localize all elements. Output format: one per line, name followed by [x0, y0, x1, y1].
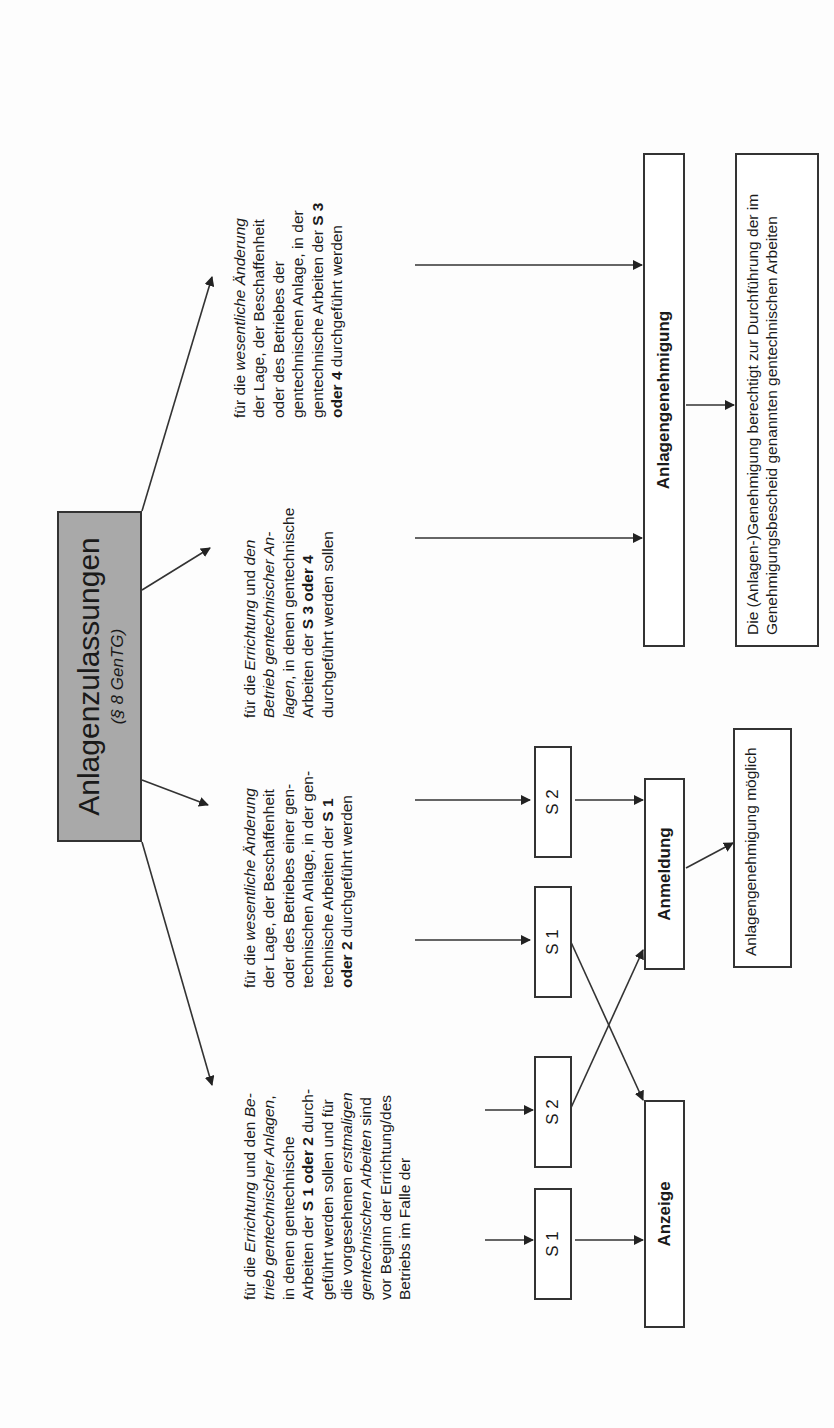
anmeldung-note-box: Anlagengenehmigung möglich	[733, 728, 792, 968]
emphasis-italic: lagen	[280, 680, 297, 718]
safety-box-s2-errichtung: S 2	[534, 1056, 572, 1168]
safety-label: S 1	[543, 929, 563, 955]
emphasis-bold: S 1	[319, 798, 336, 821]
column-aenderung-s3-s4: für die wesentliche Änderungder Lage, de…	[230, 158, 346, 418]
safety-label: S 1	[543, 1231, 563, 1257]
emphasis-bold: S 3 oder 4	[299, 555, 316, 629]
emphasis-bold: oder 2	[338, 941, 355, 988]
emphasis-italic: Betrieb gentechnischer An-	[260, 532, 277, 718]
genehmigung-note: Die (Anlagen-)Genehmigung berechtigt zur…	[743, 165, 781, 635]
emphasis-italic: gentechnischen Arbeiten	[357, 1130, 374, 1300]
column-errichtung-s3-s4: für die Errichtung und denBetrieb gentec…	[240, 468, 337, 718]
anzeige-label: Anzeige	[655, 1181, 675, 1246]
emphasis-italic: trieb gentechnischer Anlagen	[260, 1100, 277, 1300]
emphasis-italic: Be-	[241, 1093, 258, 1117]
safety-box-s2-aenderung: S 2	[534, 746, 572, 858]
emphasis-italic: wesentliche Änderung	[241, 788, 258, 941]
column-errichtung-s1-s2: für die Errichtung und den Be-trieb gent…	[240, 1040, 415, 1300]
emphasis-italic: Errichtung	[241, 600, 258, 671]
safety-label: S 2	[543, 789, 563, 815]
header-title: Anlagenzulassungen	[72, 537, 106, 816]
emphasis-italic: Errichtung	[241, 1182, 258, 1253]
emphasis-bold: S 1 oder 2	[299, 1137, 316, 1211]
column-aenderung-s1-s2: für die wesentliche Änderungder Lage, de…	[240, 738, 356, 988]
emphasis-bold: S 3	[309, 203, 326, 226]
header-subtitle: (§ 8 GenTG)	[108, 629, 128, 724]
safety-box-s1-errichtung: S 1	[534, 1188, 572, 1300]
emphasis-bold: oder 4	[328, 371, 345, 418]
anmeldung-note: Anlagengenehmigung möglich	[741, 747, 760, 956]
header-box: Anlagenzulassungen (§ 8 GenTG)	[57, 511, 142, 842]
emphasis-italic: wesentliche Änderung	[231, 218, 248, 371]
anmeldung-label: Anmeldung	[655, 827, 675, 921]
safety-label: S 2	[543, 1099, 563, 1125]
anmeldung-box: Anmeldung	[644, 778, 685, 970]
emphasis-italic: erstmaligen	[338, 1092, 355, 1172]
safety-box-s1-aenderung: S 1	[534, 886, 572, 998]
anzeige-box: Anzeige	[644, 1100, 685, 1328]
emphasis-italic: den	[241, 540, 258, 566]
anlagengenehmigung-label: Anlagengenehmigung	[654, 311, 674, 490]
diagram-canvas: Anlagenzulassungen (§ 8 GenTG) für die E…	[0, 0, 834, 1428]
anlagengenehmigung-box: Anlagengenehmigung	[643, 153, 685, 647]
genehmigung-note-box: Die (Anlagen-)Genehmigung berechtigt zur…	[735, 153, 819, 647]
